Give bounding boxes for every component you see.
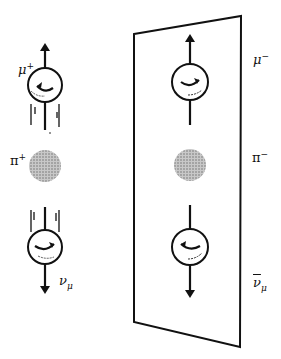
pion-plus-label: π+ <box>10 153 26 167</box>
muon-minus-icon <box>172 38 208 125</box>
muon-plus-label: μ+ <box>18 62 34 76</box>
pion-decay-diagram <box>0 0 281 359</box>
neutrino-icon <box>28 207 62 290</box>
muon-minus-label: μ− <box>253 52 269 66</box>
antineutrino-label: νμ <box>253 276 267 293</box>
pion-plus-icon <box>29 150 61 182</box>
pion-minus-label: π− <box>252 150 268 164</box>
antineutrino-icon <box>172 205 208 294</box>
neutrino-label: νμ <box>59 274 73 291</box>
pion-minus-icon <box>174 149 206 181</box>
